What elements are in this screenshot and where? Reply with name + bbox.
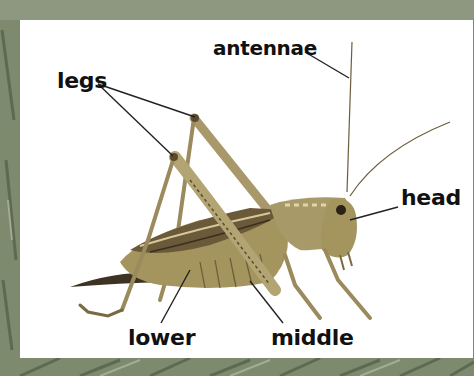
front-leg <box>325 250 370 318</box>
label-lower: lower <box>128 327 195 349</box>
middle-leg <box>285 255 320 318</box>
leader-legs-lower <box>98 84 173 156</box>
label-head: head <box>401 187 461 209</box>
diagram-stage: antennae legs head lower middle <box>0 0 474 376</box>
label-middle: middle <box>271 327 354 349</box>
label-antennae: antennae <box>213 38 317 58</box>
eye <box>336 205 346 215</box>
leader-head <box>350 207 398 220</box>
label-legs: legs <box>57 70 107 92</box>
hind-foot <box>80 305 122 316</box>
antenna-straight <box>347 42 352 192</box>
leader-legs-upper <box>98 84 195 117</box>
